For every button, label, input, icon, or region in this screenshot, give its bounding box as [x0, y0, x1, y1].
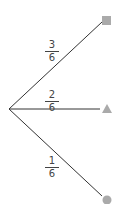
tree-diagram: [0, 0, 119, 204]
probability-label-triangle: 2 6: [45, 90, 59, 113]
square-icon: [102, 16, 111, 25]
triangle-icon: [102, 104, 112, 113]
probability-label-square: 3 6: [45, 40, 59, 63]
probability-label-circle: 1 6: [45, 156, 59, 179]
circle-icon: [103, 196, 112, 205]
branch-circle: [9, 109, 102, 196]
